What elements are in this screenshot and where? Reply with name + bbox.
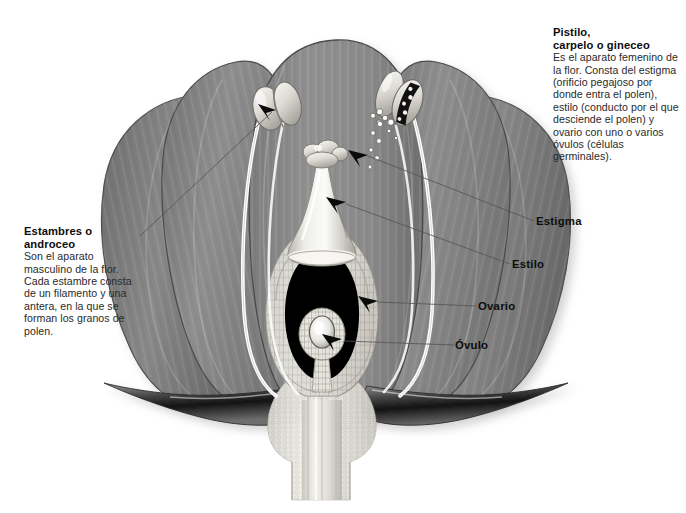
label-estigma: Estigma [536,215,582,227]
callout-estambres-body: Son el aparato masculino de la flor. Cad… [24,250,142,337]
callout-pistilo: Pistilo, carpelo o gineceo Es el aparato… [553,26,685,163]
flower-diagram: Pistilo, carpelo o gineceo Es el aparato… [0,0,686,513]
callout-estambres-heading-line2: androceo [24,238,142,251]
callout-estambres-heading-line1: Estambres o [24,225,142,238]
callout-estambres: Estambres o androceo Son el aparato masc… [24,225,142,337]
callout-pistilo-heading-line2: carpelo o gineceo [553,39,685,52]
label-ovario: Ovario [478,300,515,312]
callout-pistilo-heading-line1: Pistilo, [553,26,685,39]
callout-pistilo-body: Es el aparato femenino de la flor. Const… [553,51,685,163]
label-estilo: Estilo [512,258,544,270]
label-ovulo: Óvulo [455,339,488,351]
